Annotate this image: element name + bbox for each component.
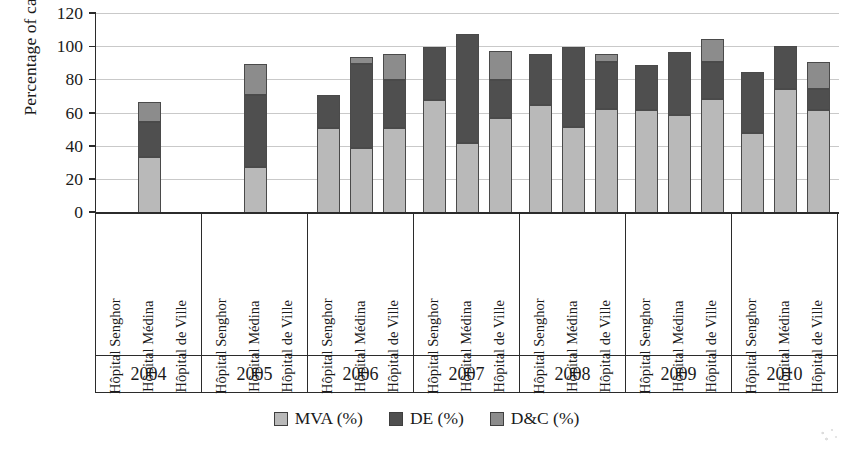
x-axis-label-h-pital-senghor: Hôpital Senghor [532, 298, 547, 393]
bar-segment-mva [807, 110, 830, 213]
bar-segment-de [701, 62, 724, 98]
hospital-label-cell: Hôpital de Ville [271, 215, 304, 353]
stacked-bar[interactable] [244, 64, 267, 213]
legend-label: D&C (%) [511, 408, 580, 429]
hospital-label-cell: Hôpital Senghor [417, 215, 450, 353]
hospital-label-cell: Hôpital de Ville [801, 215, 834, 353]
hospital-label-cell: Hôpital Senghor [99, 215, 132, 353]
stacked-bar[interactable] [456, 34, 479, 213]
x-axis-label-h-pital-senghor: Hôpital Senghor [320, 298, 335, 393]
stacked-bar[interactable] [741, 72, 764, 213]
bar-segment-mva [635, 110, 658, 213]
bar-segment-mva [456, 143, 479, 213]
y-tick-mark-60 [89, 112, 96, 114]
hospital-label-row: Hôpital SenghorHôpital MédinaHôpital de … [732, 213, 837, 355]
stacked-bar[interactable] [595, 54, 618, 213]
x-axis-label-h-pital-m-dina: Hôpital Médina [353, 300, 368, 391]
legend-swatch-icon [274, 412, 288, 426]
bar-segment-dc [138, 102, 161, 122]
stacked-bar[interactable] [701, 39, 724, 213]
bar-group-2008 [521, 14, 627, 213]
stacked-bar[interactable] [562, 47, 585, 213]
x-axis-label-h-pital-de-ville: Hôpital de Ville [704, 300, 719, 392]
y-tick-label-120: 120 [5, 5, 83, 23]
x-axis-label-h-pital-de-ville: Hôpital de Ville [280, 300, 295, 392]
bar-group-2005 [202, 14, 308, 213]
stacked-bar[interactable] [383, 54, 406, 213]
stacked-bar[interactable] [635, 65, 658, 213]
legend-item[interactable]: D&C (%) [490, 408, 580, 429]
stacked-bar[interactable] [423, 47, 446, 213]
bar-segment-mva [244, 167, 267, 213]
x-axis-label-h-pital-de-ville: Hôpital de Ville [810, 300, 825, 392]
hospital-label-row: Hôpital SenghorHôpital MédinaHôpital de … [626, 213, 731, 355]
y-tick-label-60: 60 [5, 105, 83, 123]
legend-swatch-icon [490, 412, 504, 426]
bar-segment-mva [529, 105, 552, 213]
legend-item[interactable]: DE (%) [389, 408, 464, 429]
hospital-label-cell: Hôpital de Ville [377, 215, 410, 353]
bar-segment-dc [595, 54, 618, 62]
bar-segment-mva [701, 99, 724, 213]
bar-segment-de [244, 95, 267, 166]
stacked-bar[interactable] [529, 54, 552, 213]
bar-segment-mva [350, 148, 373, 213]
stacked-bar[interactable] [317, 95, 340, 213]
bar-segment-de [456, 34, 479, 143]
bar-segment-de [489, 80, 512, 118]
bar-segment-mva [774, 89, 797, 213]
x-axis-label-h-pital-m-dina: Hôpital Médina [777, 300, 792, 391]
bar-segment-dc [383, 54, 406, 81]
y-tick-mark-20 [89, 178, 96, 180]
bar-group-2007 [414, 14, 520, 213]
bar-segment-de [595, 62, 618, 108]
bar-segment-de [774, 46, 797, 89]
x-axis-group-2004: Hôpital SenghorHôpital MédinaHôpital de … [96, 213, 202, 392]
stacked-bar[interactable] [774, 46, 797, 213]
legend-label: DE (%) [410, 408, 464, 429]
bar-segment-dc [489, 51, 512, 81]
x-axis-group-2006: Hôpital SenghorHôpital MédinaHôpital de … [308, 213, 414, 392]
bar-segment-mva [668, 115, 691, 213]
legend-swatch-icon [389, 412, 403, 426]
x-axis-group-2010: Hôpital SenghorHôpital MédinaHôpital de … [732, 213, 837, 392]
stacked-bar[interactable] [807, 62, 830, 213]
bar-segment-dc [244, 64, 267, 96]
x-axis-label-h-pital-m-dina: Hôpital Médina [671, 300, 686, 391]
y-tick-mark-80 [89, 79, 96, 81]
hospital-label-cell: Hôpital Médina [662, 215, 695, 353]
hospital-label-row: Hôpital SenghorHôpital MédinaHôpital de … [96, 213, 201, 355]
legend-item[interactable]: MVA (%) [274, 408, 363, 429]
hospital-label-cell: Hôpital Médina [238, 215, 271, 353]
bar-group-2006 [308, 14, 414, 213]
bar-segment-mva [383, 128, 406, 213]
bar-segment-de [668, 52, 691, 115]
stacked-bar[interactable] [138, 102, 161, 213]
y-tick-label-80: 80 [5, 71, 83, 89]
x-axis-label-h-pital-m-dina: Hôpital Médina [459, 300, 474, 391]
hospital-label-cell: Hôpital de Ville [165, 215, 198, 353]
bar-segment-dc [350, 57, 373, 64]
stacked-bar[interactable] [668, 52, 691, 213]
stacked-bar[interactable] [350, 57, 373, 213]
bar-segment-de [350, 64, 373, 149]
y-tick-label-20: 20 [5, 171, 83, 189]
x-axis-label-h-pital-senghor: Hôpital Senghor [638, 298, 653, 393]
x-axis-label-h-pital-de-ville: Hôpital de Ville [598, 300, 613, 392]
bar-segment-mva [562, 127, 585, 213]
x-axis-label-h-pital-de-ville: Hôpital de Ville [386, 300, 401, 392]
legend-label: MVA (%) [295, 408, 363, 429]
hospital-label-cell: Hôpital de Ville [589, 215, 622, 353]
hospital-label-cell: Hôpital Médina [132, 215, 165, 353]
y-tick-mark-120 [89, 12, 96, 14]
hospital-label-cell: Hôpital Médina [450, 215, 483, 353]
bar-group-2009 [627, 14, 733, 213]
bar-segment-mva [317, 128, 340, 213]
bar-segment-de [529, 54, 552, 105]
bar-segment-de [317, 95, 340, 128]
x-axis-group-2007: Hôpital SenghorHôpital MédinaHôpital de … [414, 213, 520, 392]
hospital-label-cell: Hôpital de Ville [483, 215, 516, 353]
bar-segment-de [423, 47, 446, 100]
stacked-bar[interactable] [489, 50, 512, 213]
x-axis-label-h-pital-m-dina: Hôpital Médina [141, 300, 156, 391]
